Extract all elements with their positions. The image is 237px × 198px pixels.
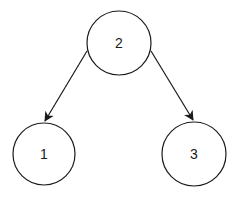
node-3: 3 bbox=[162, 122, 226, 186]
node-1: 1 bbox=[13, 123, 75, 185]
node-1-label: 1 bbox=[40, 146, 48, 162]
node-2-label: 2 bbox=[115, 35, 123, 51]
diagram-canvas: 2 1 3 bbox=[0, 0, 237, 198]
tree-diagram: 2 1 3 bbox=[0, 0, 237, 198]
node-2: 2 bbox=[87, 11, 151, 75]
edge-2-to-3 bbox=[151, 51, 193, 120]
node-3-label: 3 bbox=[190, 146, 198, 162]
edge-2-to-1 bbox=[45, 51, 87, 121]
